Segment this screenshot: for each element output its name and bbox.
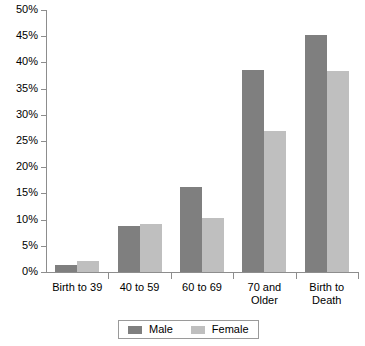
y-axis-tick [41,62,46,63]
y-axis-tick [41,246,46,247]
x-axis-line [46,272,359,273]
x-axis-label: Birth toDeath [296,281,358,306]
y-axis-tick-label: 45% [0,30,38,41]
bar-female [202,218,224,272]
legend-swatch-female-icon [191,326,205,334]
y-axis-tick [41,193,46,194]
y-axis-tick [41,89,46,90]
x-axis-tick [108,273,109,279]
y-axis-tick-label: 15% [0,187,38,198]
x-axis-label-line: Birth to [296,281,358,294]
x-axis-label: 70 andOlder [233,281,295,306]
y-axis-tick-label: 10% [0,214,38,225]
bar-chart: 0%5%10%15%20%25%30%35%40%45%50% Birth to… [0,0,365,346]
y-axis-tick-label: 0% [0,266,38,277]
bar-group [118,10,162,272]
y-axis-tick-label: 35% [0,83,38,94]
x-axis-tick [233,273,234,279]
bar-male [55,265,77,272]
x-axis-tick [171,273,172,279]
bar-group [305,10,349,272]
legend-label-male: Male [149,324,173,335]
bar-male [118,226,140,272]
bar-group [55,10,99,272]
bar-group [242,10,286,272]
x-axis-label-line: 60 to 69 [171,281,233,294]
x-axis-label: Birth to 39 [46,281,108,294]
legend-swatch-male-icon [128,326,142,334]
chart-legend: Male Female [118,320,259,339]
y-axis-tick-label: 30% [0,109,38,120]
bar-male [305,35,327,272]
bar-male [242,70,264,272]
x-axis-tick [358,273,359,279]
x-axis-label-line: Death [296,294,358,307]
y-axis-tick-label: 25% [0,135,38,146]
y-axis-tick-label: 5% [0,240,38,251]
bar-group [180,10,224,272]
y-axis-tick [41,115,46,116]
legend-entry-male: Male [128,324,173,335]
x-axis-label-line: Birth to 39 [46,281,108,294]
y-axis-tick [41,272,46,273]
y-axis-line [46,10,47,273]
x-axis-tick [296,273,297,279]
x-axis-label-line: 40 to 59 [108,281,170,294]
bar-female [140,224,162,272]
y-axis-tick [41,36,46,37]
x-axis-label-line: Older [233,294,295,307]
y-axis-tick [41,167,46,168]
y-axis-tick-label: 50% [0,4,38,15]
x-axis-label: 40 to 59 [108,281,170,294]
legend-label-female: Female [212,324,249,335]
y-axis-tick [41,220,46,221]
y-axis-tick [41,10,46,11]
y-axis-tick-label: 20% [0,161,38,172]
x-axis-label-line: 70 and [233,281,295,294]
bar-male [180,187,202,272]
bar-female [77,261,99,272]
bar-female [327,71,349,272]
legend-entry-female: Female [191,324,249,335]
bar-female [264,131,286,272]
y-axis-tick [41,141,46,142]
x-axis-label: 60 to 69 [171,281,233,294]
y-axis-tick-label: 40% [0,56,38,67]
